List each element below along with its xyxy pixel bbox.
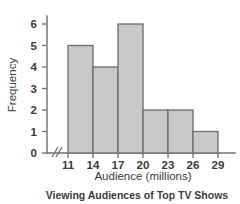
y-tick-label: 6: [31, 18, 37, 30]
histogram-figure: 6543210 11141720232629 Frequency Audienc…: [0, 0, 240, 204]
y-tick-label: 3: [31, 83, 37, 95]
y-tick-label: 5: [31, 40, 38, 52]
y-tick-label: 0: [31, 147, 37, 159]
histogram-bar: [118, 24, 143, 153]
x-axis-title: Audience (millions): [94, 170, 191, 182]
histogram-bar: [168, 110, 193, 153]
histogram-svg: 6543210 11141720232629 Frequency Audienc…: [0, 0, 240, 204]
histogram-bar: [93, 67, 118, 153]
x-tick-label: 11: [62, 159, 75, 171]
x-tick-label: 29: [212, 159, 225, 171]
histogram-bar: [193, 132, 218, 154]
histogram-bar: [68, 46, 93, 154]
y-tick-label: 2: [31, 104, 37, 116]
y-tick-label: 4: [31, 61, 38, 73]
chart-caption: Viewing Audiences of Top TV Shows: [46, 189, 229, 201]
y-axis-title: Frequency: [6, 58, 18, 113]
histogram-bar: [143, 110, 168, 153]
y-tick-label: 1: [31, 126, 38, 138]
